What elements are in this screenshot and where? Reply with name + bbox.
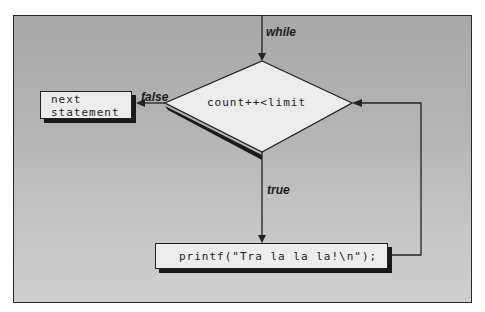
printf-statement-text: printf("Tra la la la!\n"); <box>179 250 377 263</box>
true-label: true <box>267 183 290 197</box>
false-label: false <box>141 90 168 104</box>
printf-statement-box: printf("Tra la la la!\n"); <box>155 243 388 269</box>
next-statement-box: next statement <box>40 91 132 119</box>
next-statement-line1: next <box>51 93 131 106</box>
condition-text: count++<limit <box>207 96 306 109</box>
while-label: while <box>266 25 296 39</box>
next-statement-line2: statement <box>51 106 131 119</box>
